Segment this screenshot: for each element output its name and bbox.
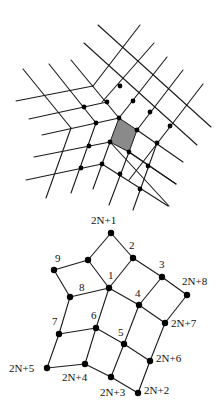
lattice-line [26, 164, 102, 180]
label-6: 6 [91, 309, 97, 321]
label-9: 9 [55, 252, 61, 264]
node-2N+8 [184, 292, 190, 298]
lattice-line [137, 130, 183, 162]
node-9 [51, 267, 57, 273]
node-2N+5 [44, 365, 50, 371]
label-2N+8: 2N+8 [182, 275, 208, 287]
node-2N+7 [162, 320, 168, 326]
lattice-line [34, 142, 110, 157]
lattice-line [137, 70, 183, 130]
label-5: 5 [118, 326, 124, 338]
bottom-graph: 2N+1 2 3 2N+8 9 1 8 4 7 6 2N+7 5 2N+6 2N… [9, 214, 208, 398]
label-4: 4 [135, 287, 141, 299]
label-2N+2: 2N+2 [144, 384, 169, 396]
label-2N+6: 2N+6 [156, 352, 182, 364]
lattice-line [46, 128, 71, 198]
label-2N+1: 2N+1 [91, 214, 116, 226]
node-8 [67, 294, 73, 300]
label-8: 8 [79, 281, 85, 293]
node-2N+6 [147, 358, 153, 364]
top-lattice [16, 25, 211, 210]
label-7: 7 [52, 315, 58, 327]
node-4 [136, 302, 142, 308]
node-1 [106, 285, 112, 291]
node-5 [121, 341, 127, 347]
node-2N+1 [108, 230, 114, 236]
node-2N+2 [135, 390, 141, 396]
lattice-line [102, 164, 168, 206]
lattice-line [133, 143, 157, 210]
lattice-line [98, 25, 211, 127]
node-3 [159, 274, 165, 280]
label-2: 2 [129, 239, 135, 251]
label-2N+4: 2N+4 [62, 371, 88, 383]
lattice-line [42, 118, 119, 135]
node-2 [130, 255, 136, 261]
graph-edges [47, 233, 187, 393]
lattice-line [16, 86, 93, 101]
node-6 [93, 325, 99, 331]
label-2N+7: 2N+7 [171, 317, 197, 329]
lattice-line [109, 152, 129, 205]
label-2N+5: 2N+5 [9, 362, 35, 374]
figure-canvas: 2N+1 2 3 2N+8 9 1 8 4 7 6 2N+7 5 2N+6 2N… [0, 0, 222, 418]
lattice-line [71, 123, 96, 193]
lattice-line [29, 102, 107, 119]
node-7 [56, 331, 62, 337]
node-2N+4 [82, 361, 88, 367]
node-2N+3 [108, 374, 114, 380]
node-unlabeled [85, 257, 91, 263]
label-3: 3 [159, 258, 165, 270]
label-1: 1 [108, 269, 114, 281]
lattice-line [93, 25, 140, 86]
label-2N+3: 2N+3 [100, 386, 126, 398]
